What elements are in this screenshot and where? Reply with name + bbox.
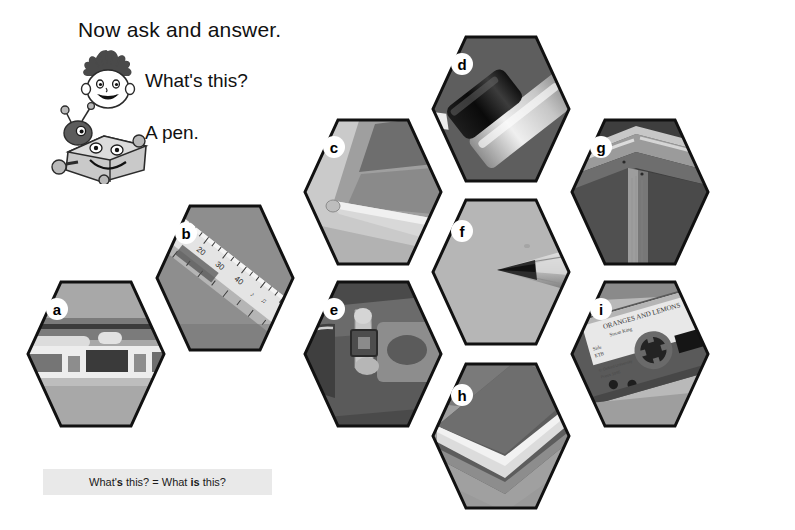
hexagon-label-g: g: [590, 136, 612, 158]
hexagon-e[interactable]: e: [303, 280, 443, 428]
note-bold-2: is: [190, 476, 199, 488]
hexagon-label-f: f: [451, 220, 473, 242]
hexagon-g[interactable]: g: [570, 118, 710, 266]
hexagon-label-a: a: [46, 298, 68, 320]
hexagon-label-d: d: [451, 53, 473, 75]
note-part-3: this?: [200, 476, 226, 488]
grammar-note-text: What's this? = What is this?: [89, 476, 226, 488]
hexagon-label-h: h: [451, 384, 473, 406]
hexagon-label-e: e: [323, 298, 345, 320]
grammar-note: What's this? = What is this?: [43, 469, 272, 495]
note-part-2: this? = What: [123, 476, 191, 488]
hexagon-d[interactable]: d: [431, 35, 571, 183]
speech-question: What's this?: [145, 70, 248, 92]
hexagon-i[interactable]: ORANGES AND LEMONS Susan King Side ETB ©…: [570, 280, 710, 428]
hexagon-a[interactable]: a: [26, 280, 166, 428]
speech-answer: A pen.: [145, 122, 199, 144]
note-part-1: What': [89, 476, 117, 488]
hexagon-label-b: b: [175, 222, 197, 244]
robot-character: [46, 100, 156, 184]
hexagon-f[interactable]: f: [431, 198, 571, 346]
hexagon-h[interactable]: h: [431, 362, 571, 510]
hexagon-c[interactable]: c: [303, 118, 443, 266]
page-title: Now ask and answer.: [78, 18, 281, 42]
hexagon-b[interactable]: 1020 3040 ♪♫ b: [155, 204, 295, 352]
hexagon-label-i: i: [590, 298, 612, 320]
worksheet-page: Now ask and answer.: [0, 0, 795, 530]
hexagon-label-c: c: [323, 136, 345, 158]
